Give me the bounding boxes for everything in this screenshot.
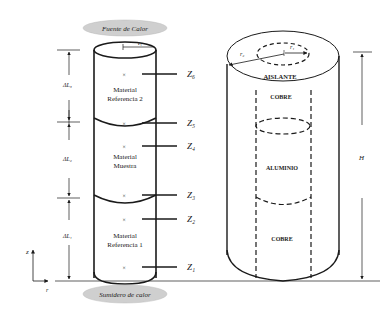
left-cylinder-diagram: Fuente de Calor r₁ Material Referencia 2… — [25, 20, 380, 303]
layer-copper-top-label: COBRE — [270, 94, 291, 100]
thermocouple-z3: × Z₃ — [122, 190, 195, 200]
right-cylinder-diagram: r₂ r₁ AISLANTE COBRE ALUMINIO COBRE H — [227, 31, 372, 281]
section-ref1-material: Material — [113, 232, 137, 240]
svg-text:Z₄: Z₄ — [187, 141, 195, 151]
svg-text:×: × — [122, 72, 126, 78]
cylinder-top — [94, 42, 156, 58]
inner-radius-label: r₁ — [290, 44, 294, 50]
svg-text:Z₃: Z₃ — [187, 190, 195, 200]
section-ref1-name: Referencia 1 — [107, 241, 143, 249]
outer-radius-label: r₂ — [240, 51, 244, 57]
svg-text:Z₆: Z₆ — [187, 69, 195, 79]
thermocouple-z6: × Z₆ — [122, 69, 195, 79]
svg-text:×: × — [122, 121, 126, 127]
axis-r-label: r — [46, 287, 49, 293]
svg-text:×: × — [122, 217, 126, 223]
height-label: H — [358, 154, 365, 162]
radius-r1-label: r₁ — [138, 40, 142, 46]
insulation-label: AISLANTE — [263, 73, 296, 80]
thermocouple-z4: × Z₄ — [122, 141, 195, 151]
svg-text:Z₁: Z₁ — [187, 262, 195, 272]
layer-aluminum-label: ALUMINIO — [266, 165, 298, 171]
length-dl3-label: ΔL₃ — [62, 82, 72, 88]
section-sample-material: Material — [113, 153, 137, 161]
thermocouple-z1: × Z₁ — [122, 262, 195, 272]
dimension-lines-left — [55, 50, 380, 281]
svg-text:Z₅: Z₅ — [187, 118, 195, 128]
length-dl1-label: ΔL₁ — [62, 233, 72, 239]
svg-text:×: × — [122, 265, 126, 271]
diagram-canvas: Fuente de Calor r₁ Material Referencia 2… — [0, 0, 390, 317]
heat-source-label: Fuente de Calor — [101, 25, 148, 33]
coordinate-axes — [33, 250, 48, 281]
heat-sink-label: Sumidero de calor — [99, 291, 151, 299]
thermocouple-z5: × Z₅ — [122, 118, 195, 128]
length-dl2-label: ΔL₂ — [62, 156, 72, 162]
section-ref2-name: Referencia 2 — [107, 95, 143, 103]
layer-copper-bottom-label: COBRE — [271, 236, 292, 242]
axis-z-label: z — [25, 248, 29, 256]
inner-boundary-upper — [256, 118, 310, 134]
section-ref2-material: Material — [113, 86, 137, 94]
svg-text:Z₂: Z₂ — [187, 214, 195, 224]
height-dimension — [353, 52, 372, 279]
thermocouple-z2: × Z₂ — [122, 214, 195, 224]
svg-text:×: × — [122, 193, 126, 199]
svg-text:×: × — [122, 144, 126, 150]
section-sample-name: Muestra — [114, 162, 138, 170]
